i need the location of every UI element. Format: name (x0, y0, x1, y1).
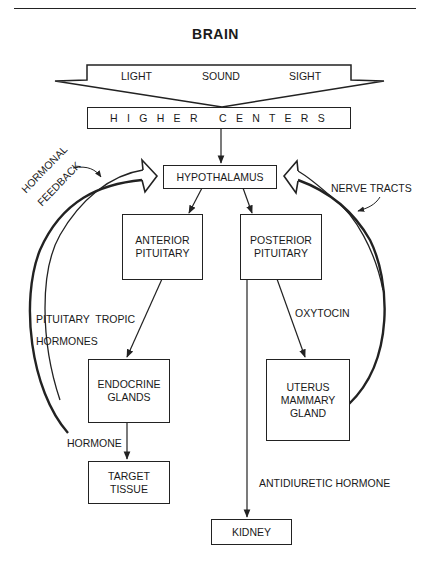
uterus-mammary-gland-box: UTERUS MAMMARY GLAND (266, 359, 350, 441)
uterus-line2: MAMMARY (281, 394, 336, 407)
posterior-pituitary-line1: POSTERIOR (250, 234, 312, 247)
uterus-line3: GLAND (290, 407, 326, 420)
arrow-hypothalamus-to-posterior (243, 188, 252, 213)
target-tissue-line2: TISSUE (110, 483, 148, 496)
higher-centers-box: H I G H E R C E N T E R S (87, 107, 351, 129)
nerve-tracts-label: NERVE TRACTS (331, 181, 412, 195)
antidiuretic-hormone-label: ANTIDIURETIC HORMONE (259, 476, 390, 490)
target-tissue-line1: TARGET (108, 470, 150, 483)
hormones-label: HORMONES (36, 334, 98, 348)
endocrine-glands-line1: ENDOCRINE (97, 378, 160, 391)
posterior-pituitary-box: POSTERIOR PITUITARY (240, 214, 322, 280)
arrow-hypothalamus-to-anterior (189, 188, 202, 213)
anterior-pituitary-box: ANTERIOR PITUITARY (122, 214, 203, 280)
posterior-pituitary-line2: PITUITARY (254, 247, 308, 260)
hormone-label: HORMONE (67, 436, 122, 450)
uterus-line1: UTERUS (286, 381, 329, 394)
oxytocin-label: OXYTOCIN (295, 306, 350, 320)
anterior-pituitary-line2: PITUITARY (136, 247, 190, 260)
sense-light: LIGHT (121, 70, 152, 82)
nerve-tracts-pointer (358, 197, 380, 211)
kidney-box: KIDNEY (211, 519, 292, 545)
sense-sound: SOUND (202, 70, 240, 82)
anterior-pituitary-line1: ANTERIOR (135, 234, 189, 247)
endocrine-glands-box: ENDOCRINE GLANDS (88, 359, 170, 423)
hypothalamus-box: HYPOTHALAMUS (163, 165, 277, 189)
sense-sight: SIGHT (289, 70, 321, 82)
target-tissue-box: TARGET TISSUE (88, 461, 170, 504)
pituitary-tropic-label: PITUITARY TROPIC (36, 312, 135, 326)
endocrine-glands-line2: GLANDS (107, 391, 150, 404)
